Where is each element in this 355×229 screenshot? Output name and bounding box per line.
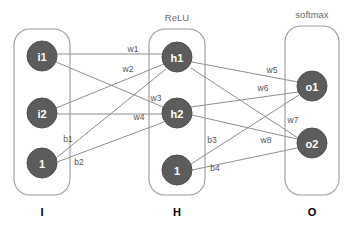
layer-name-input: I bbox=[40, 206, 43, 218]
node-label-i2: i2 bbox=[37, 108, 46, 120]
activation-label-hidden: ReLU bbox=[165, 12, 189, 23]
edge-label-w2: w2 bbox=[122, 64, 134, 74]
edge-label-b3: b3 bbox=[207, 135, 217, 145]
edge-label-b4: b4 bbox=[210, 163, 220, 173]
layer-name-hidden: H bbox=[173, 206, 181, 218]
edge-label-w4: w4 bbox=[133, 112, 145, 122]
layer-name-output: O bbox=[308, 206, 317, 218]
edge-ib-to-h2 bbox=[57, 122, 164, 162]
edge-hb-to-o1 bbox=[191, 95, 299, 164]
activation-label-output: softmax bbox=[295, 9, 329, 20]
edge-h2-to-o1 bbox=[191, 92, 298, 107]
nodes-group: i1i21h1h21o1o2 bbox=[27, 41, 327, 185]
network-canvas: i1i21h1h21o1o2 w1w2w3w4b1b2w5w6w7w8b3b4 … bbox=[0, 0, 355, 229]
edge-label-w3: w3 bbox=[150, 93, 162, 103]
edge-label-w8: w8 bbox=[260, 135, 272, 145]
edge-label-b1: b1 bbox=[63, 134, 73, 144]
node-label-ib: 1 bbox=[39, 158, 45, 170]
edge-label-w5: w5 bbox=[266, 65, 278, 75]
node-label-h2: h2 bbox=[171, 108, 184, 120]
edge-i2-to-h1 bbox=[56, 64, 164, 108]
edge-label-w6: w6 bbox=[257, 83, 269, 93]
layer-box-output bbox=[285, 26, 339, 195]
node-label-o2: o2 bbox=[306, 138, 319, 150]
neural-network-diagram: i1i21h1h21o1o2 w1w2w3w4b1b2w5w6w7w8b3b4 … bbox=[0, 0, 355, 229]
node-label-o1: o1 bbox=[306, 81, 319, 93]
edge-label-b2: b2 bbox=[74, 157, 84, 167]
edge-label-w7: w7 bbox=[287, 115, 299, 125]
node-label-i1: i1 bbox=[37, 51, 46, 63]
node-label-h1: h1 bbox=[171, 52, 184, 64]
edge-label-w1: w1 bbox=[127, 44, 139, 54]
node-label-hb: 1 bbox=[174, 165, 180, 177]
edge-hb-to-o2 bbox=[192, 148, 297, 170]
